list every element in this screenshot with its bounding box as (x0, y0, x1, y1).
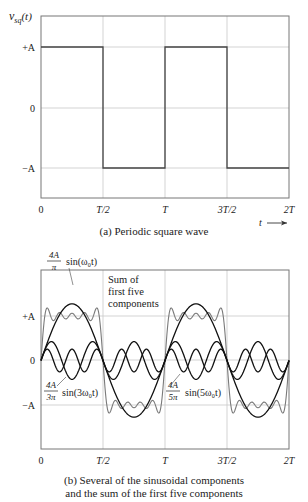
figure-canvas: vsq(t) +A 0 −A 0 T/2 T 3T/2 2T t +A 0 (0, 0, 308, 502)
square-wave-curve (41, 47, 289, 168)
plot-a-ytick-plusA: +A (22, 42, 36, 53)
plot-b-xtick-3half: 3T/2 (217, 455, 236, 466)
plot-b-xtick-half: T/2 (96, 455, 109, 466)
plot-a-xtick-0: 0 (39, 204, 44, 215)
plot-b-ytick-zero: 0 (30, 355, 35, 366)
plot-a-xtick-T: T (162, 204, 169, 215)
plot-b-xtick-0: 0 (39, 455, 44, 466)
plot-a-ylabel: vsq(t) (9, 9, 32, 25)
svg-text:Sum of: Sum of (108, 274, 139, 285)
svg-text:4A: 4A (46, 380, 57, 390)
svg-text:sin(5ω₀t): sin(5ω₀t) (185, 387, 221, 399)
plot-a-xtick-3half: 3T/2 (217, 204, 236, 215)
plot-a-ytick-minusA: −A (22, 163, 36, 174)
plot-a-xtick-2T: 2T (284, 204, 296, 215)
sum-annotation: Sum of first five components (108, 274, 159, 309)
plot-b-xtick-T: T (162, 455, 169, 466)
fundamental-annotation: 4A π sin(ω₀t) (47, 250, 97, 285)
svg-text:4A: 4A (168, 380, 179, 390)
plot-a: vsq(t) +A 0 −A 0 T/2 T 3T/2 2T t (9, 9, 296, 228)
svg-text:components: components (108, 298, 159, 309)
plot-a-ytick-zero: 0 (30, 103, 35, 114)
svg-text:π: π (52, 262, 57, 272)
plot-b: +A 0 −A 0 T/2 T 3T/2 2T 4A π sin(ω₀t) Su… (22, 250, 296, 466)
plot-b-ytick-minusA: −A (22, 400, 36, 411)
plot-b-caption-line1: (b) Several of the sinusoidal components (0, 474, 308, 487)
svg-text:5π: 5π (168, 392, 178, 402)
plot-b-ytick-plusA: +A (22, 311, 36, 322)
third-harmonic-annotation: 4A 3π sin(3ω₀t) (44, 377, 98, 402)
plot-a-caption: (a) Periodic square wave (0, 225, 308, 238)
svg-text:4A: 4A (49, 250, 60, 260)
svg-text:3π: 3π (45, 392, 56, 402)
svg-text:sin(ω₀t): sin(ω₀t) (66, 256, 97, 268)
plot-a-xtick-half: T/2 (96, 204, 109, 215)
plot-b-xtick-2T: 2T (284, 455, 296, 466)
svg-text:first five: first five (108, 286, 144, 297)
svg-text:sin(3ω₀t): sin(3ω₀t) (62, 387, 98, 399)
plot-b-caption-line2: and the sum of the first five components (0, 487, 308, 500)
